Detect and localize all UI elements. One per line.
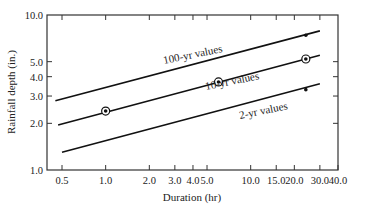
- x-tick-label: 20.0: [285, 175, 303, 186]
- rainfall-depth-duration-chart: 0.51.02.03.04.05.010.015.020.030.040.0 1…: [0, 0, 366, 213]
- x-tick-label: 4.0: [186, 175, 199, 186]
- y-axis-label: Rainfall depth (in.): [5, 50, 18, 134]
- x-tick-label: 1.0: [99, 175, 112, 186]
- series-line: [62, 84, 320, 153]
- y-tick-label: 4.0: [30, 72, 43, 83]
- x-tick-label: 3.0: [168, 175, 181, 186]
- x-tick-label: 15.0: [267, 175, 285, 186]
- data-point-dot: [104, 109, 108, 113]
- x-tick-label: 2.0: [143, 175, 156, 186]
- x-tick-label: 10.0: [241, 175, 259, 186]
- x-tick-label: 0.5: [55, 175, 68, 186]
- y-tick-label: 2.0: [30, 118, 43, 129]
- data-point-dot: [304, 88, 308, 92]
- y-tick-label: 5.0: [30, 57, 43, 68]
- x-tick-label: 40.0: [329, 175, 347, 186]
- plot-svg: 0.51.02.03.04.05.010.015.020.030.040.0 1…: [0, 0, 366, 213]
- x-tick-label: 30.0: [311, 175, 329, 186]
- data-point-dot: [304, 57, 308, 61]
- y-tick-label: 10.0: [25, 10, 43, 21]
- x-axis-label: Duration (hr): [163, 191, 222, 204]
- series-label-100yr: 100-yr values: [162, 42, 223, 66]
- data-point-dot: [304, 33, 308, 37]
- y-tick-label: 1.0: [30, 165, 43, 176]
- x-axis-ticks: 0.51.02.03.04.05.010.015.020.030.040.0: [55, 15, 347, 186]
- series-label-2yr: 2-yr values: [238, 99, 289, 121]
- y-tick-label: 3.0: [30, 91, 43, 102]
- x-tick-label: 5.0: [200, 175, 213, 186]
- series-label-10yr: 10-yr values: [204, 69, 260, 92]
